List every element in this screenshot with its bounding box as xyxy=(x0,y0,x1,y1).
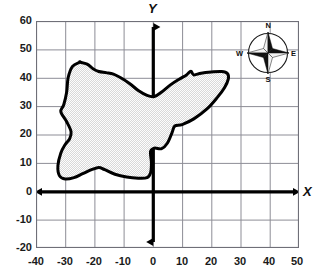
region-shape-outline xyxy=(58,62,229,179)
y-tick-neg20: -20 xyxy=(0,241,32,253)
region-overlay xyxy=(36,21,299,248)
y-tick-60: 60 xyxy=(2,14,32,26)
y-tick-50: 50 xyxy=(2,42,32,54)
x-axis-label: X xyxy=(303,184,312,199)
y-tick-20: 20 xyxy=(2,127,32,139)
y-axis-label: Y xyxy=(148,1,157,16)
y-tick-40: 40 xyxy=(2,71,32,83)
y-tick-neg10: -10 xyxy=(0,213,32,225)
y-tick-0: 0 xyxy=(2,185,32,197)
y-tick-10: 10 xyxy=(2,156,32,168)
coordinate-plane-figure: 60 50 40 30 20 10 0 -10 -20 -40 -30 -20 … xyxy=(0,0,316,280)
x-tick-50: 50 xyxy=(280,255,314,267)
y-tick-30: 30 xyxy=(2,99,32,111)
